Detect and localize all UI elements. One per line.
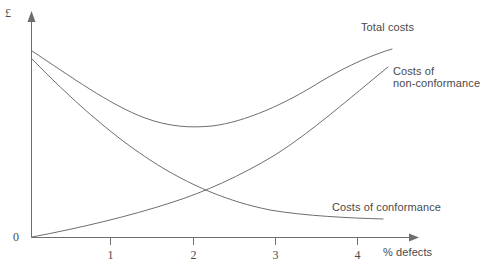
x-axis-title: % defects [383, 246, 432, 258]
x-axis-arrowhead [409, 234, 419, 242]
series-label-non-conformance-line1: Costs of [393, 65, 480, 77]
cost-of-quality-chart: £ 0 1 2 3 4 % defects Total costs Costs … [0, 0, 496, 266]
series-label-total-costs: Total costs [361, 21, 414, 33]
series-label-non-conformance: Costs of non-conformance [393, 65, 480, 90]
origin-label: 0 [8, 230, 24, 245]
x-tick-label-4: 4 [348, 248, 368, 263]
series-curve-total-costs [32, 49, 392, 127]
series-label-conformance: Costs of conformance [332, 201, 441, 213]
chart-plot-area [0, 0, 496, 266]
x-tick-label-2: 2 [184, 248, 204, 263]
x-tick-label-1: 1 [101, 248, 121, 263]
x-tick-label-3: 3 [266, 248, 286, 263]
series-label-non-conformance-line2: non-conformance [393, 77, 480, 89]
series-curve-conformance [32, 59, 383, 219]
y-axis-title: £ [5, 7, 11, 20]
y-axis-arrowhead [28, 11, 36, 22]
